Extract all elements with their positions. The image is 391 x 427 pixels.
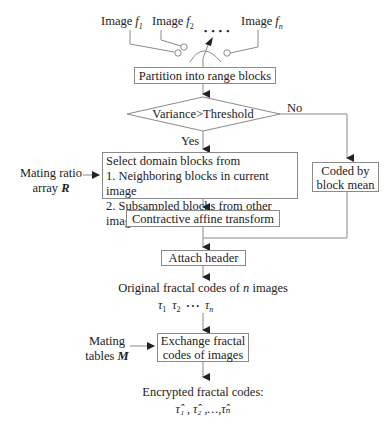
- select-line2: 1. Neighboring blocks in current image: [106, 169, 297, 199]
- label-prefix: Image: [101, 14, 135, 28]
- prefix: tables: [85, 349, 117, 363]
- attach-header-box: Attach header: [161, 250, 246, 266]
- prefix: Original fractal codes of: [118, 281, 243, 295]
- line2: array R: [18, 181, 84, 196]
- sub-n: n: [209, 305, 213, 314]
- partition-box: Partition into range blocks: [134, 67, 276, 84]
- select-line1: Select domain blocks from: [106, 154, 297, 169]
- subscript: 1: [139, 22, 143, 31]
- select-domain-box: Select domain blocks from 1. Neighboring…: [102, 152, 298, 199]
- coded-block-mean-box: Coded by block mean: [312, 162, 379, 192]
- label-prefix: Image: [241, 14, 275, 28]
- line1: Mating ratio: [18, 166, 84, 181]
- var-M: M: [118, 349, 129, 363]
- mating-tables-label: Mating tables M: [84, 334, 130, 364]
- input-image-f1: Image f1: [101, 14, 143, 34]
- yes-label: Yes: [181, 134, 199, 148]
- decision-label: Variance>Threshold: [145, 107, 261, 121]
- encrypted-codes-values: τ̂₁ , τ̂₂ ,…,τ̂ₙ: [150, 402, 256, 416]
- suffix: images: [249, 281, 288, 295]
- contractive-affine-box: Contractive affine transform: [126, 210, 280, 227]
- subscript: n: [279, 22, 283, 31]
- var-R: R: [61, 181, 69, 195]
- sub-1: 1: [162, 305, 166, 314]
- contractive-label: Contractive affine transform: [132, 212, 274, 226]
- no-label: No: [287, 101, 302, 115]
- coded-line2: block mean: [313, 178, 378, 192]
- sub-2: 2: [177, 305, 181, 314]
- line2: tables M: [84, 349, 130, 364]
- partition-label: Partition into range blocks: [139, 69, 271, 83]
- original-codes-label: Original fractal codes of n images: [100, 281, 306, 295]
- subscript: 2: [190, 22, 194, 31]
- tau-sequence: τ1 τ2 • • • τn: [158, 298, 213, 317]
- tau-ellipsis: • • •: [187, 302, 199, 311]
- exchange-codes-box: Exchange fractal codes of images: [157, 333, 249, 362]
- label-prefix: Image: [152, 14, 186, 28]
- switch-arrow-icon: [205, 37, 213, 46]
- input-image-fn: Image fn: [241, 14, 283, 34]
- mating-ratio-array-label: Mating ratio array R: [18, 166, 84, 196]
- input-ellipsis: • • • •: [204, 24, 230, 38]
- coded-line1: Coded by: [313, 164, 378, 178]
- attach-label: Attach header: [169, 251, 239, 265]
- prefix: array: [32, 181, 61, 195]
- line1: Mating: [84, 334, 130, 349]
- input-image-f2: Image f2: [152, 14, 194, 34]
- encrypted-codes-label: Encrypted fractal codes:: [130, 385, 276, 399]
- exchange-line2: codes of images: [158, 348, 248, 362]
- exchange-line1: Exchange fractal: [158, 334, 248, 348]
